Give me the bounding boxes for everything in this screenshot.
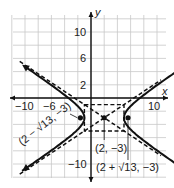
center-label: (2, −3) [95,142,127,154]
tick-y-6: 6 [80,52,86,64]
x-axis-label: x [161,85,168,97]
tick-y-10: 10 [74,26,86,38]
focus-right-label: (2 + √13, −3) [96,161,159,173]
tick-y-neg10: −10 [68,158,87,170]
hyperbola-graph: x y −10 −6 10 10 6 2 −10 (2, −3) (2 + √1… [0,0,174,188]
axes [10,12,168,182]
tick-y-2: 2 [80,79,86,91]
tick-x-10: 10 [148,100,160,112]
tick-x-neg10: −10 [15,100,34,112]
y-axis-label: y [94,6,102,18]
